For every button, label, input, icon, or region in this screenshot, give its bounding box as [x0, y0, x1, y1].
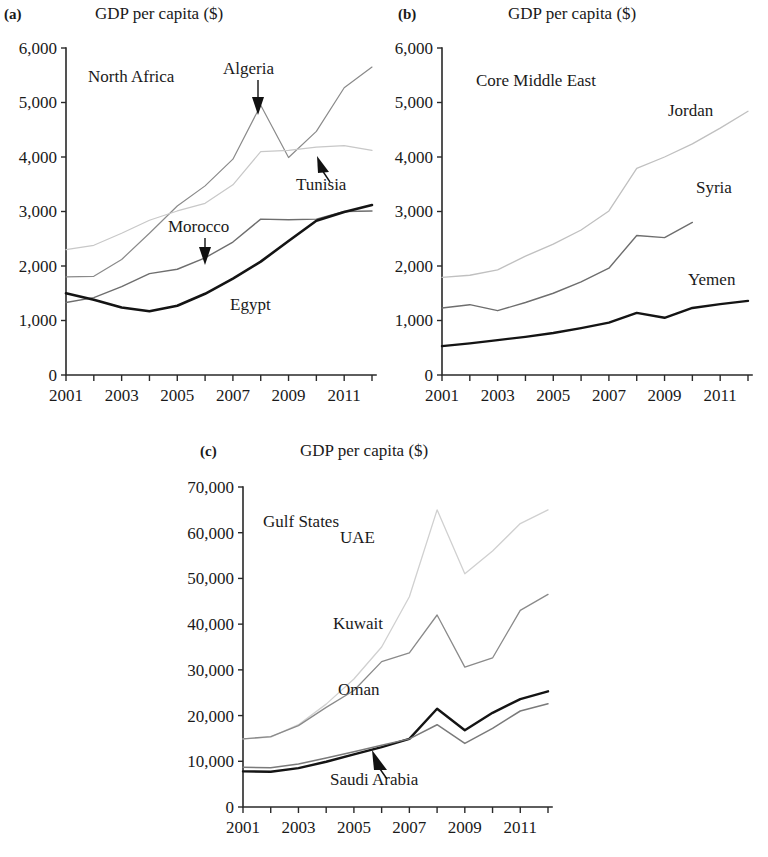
chart-c-svg: 010,00020,00030,00040,00050,00060,00070,…: [140, 437, 760, 857]
axis-lines: [243, 487, 552, 807]
x-tick-label: 2001: [49, 386, 83, 405]
y-tick-label: 5,000: [19, 93, 57, 112]
series-line-saudi-arabia: [243, 704, 548, 768]
series-annotations: JordanSyriaYemen: [668, 101, 736, 289]
x-tick-label: 2011: [327, 386, 360, 405]
x-tick-label: 2007: [392, 818, 427, 837]
y-tick-label: 20,000: [187, 707, 234, 726]
series-line-yemen: [442, 301, 748, 346]
panel-gulf-states: (c) GDP per capita ($) 010,00020,00030,0…: [140, 437, 760, 857]
x-tick-label: 2009: [272, 386, 306, 405]
chart-b: 01,0002,0003,0004,0005,0006,000200120032…: [396, 0, 768, 430]
y-tick-label: 70,000: [187, 478, 234, 497]
y-tick-label: 0: [425, 366, 434, 385]
x-tick-label: 2007: [592, 386, 627, 405]
axes-group: 01,0002,0003,0004,0005,0006,000200120032…: [395, 39, 752, 405]
y-tick-label: 1,000: [395, 311, 433, 330]
x-tick-label: 2005: [160, 386, 194, 405]
series-annotations: AlgeriaTunisiaMoroccoEgypt: [168, 59, 347, 314]
series-label-kuwait: Kuwait: [333, 614, 383, 633]
series-label-uae: UAE: [340, 528, 375, 547]
arrow-head-icon: [252, 97, 264, 115]
y-tick-label: 3,000: [395, 202, 433, 221]
region-label: Gulf States: [263, 512, 339, 531]
y-tick-label: 1,000: [19, 311, 57, 330]
region-label-group: North Africa: [88, 67, 175, 86]
axis-lines: [66, 48, 376, 375]
x-tick-label: 2005: [337, 818, 371, 837]
panel-core-middle-east: (b) GDP per capita ($) 01,0002,0003,0004…: [396, 0, 768, 430]
y-tick-label: 2,000: [19, 257, 57, 276]
x-tick-label: 2009: [448, 818, 482, 837]
y-tick-label: 30,000: [187, 661, 234, 680]
y-tick-label: 6,000: [395, 39, 433, 58]
series-label-tunisia: Tunisia: [296, 175, 347, 194]
y-tick-label: 5,000: [395, 93, 433, 112]
series-label-saudi-arabia: Saudi Arabia: [330, 770, 419, 789]
y-tick-label: 2,000: [395, 257, 433, 276]
arrow-head-icon: [372, 750, 387, 770]
region-label: Core Middle East: [476, 71, 596, 90]
x-tick-label: 2011: [703, 386, 736, 405]
series-line-uae: [243, 510, 548, 739]
series-label-egypt: Egypt: [230, 295, 271, 314]
region-label: North Africa: [88, 67, 175, 86]
series-label-algeria: Algeria: [223, 59, 274, 78]
series-label-jordan: Jordan: [668, 101, 714, 120]
y-tick-label: 3,000: [19, 202, 57, 221]
chart-b-svg: 01,0002,0003,0004,0005,0006,000200120032…: [396, 0, 768, 430]
series-group: [243, 510, 548, 772]
y-tick-label: 60,000: [187, 524, 234, 543]
x-tick-label: 2005: [536, 386, 570, 405]
series-label-syria: Syria: [696, 178, 732, 197]
y-tick-label: 6,000: [19, 39, 57, 58]
x-tick-label: 2003: [281, 818, 315, 837]
series-label-morocco: Morocco: [168, 217, 229, 236]
chart-c: 010,00020,00030,00040,00050,00060,00070,…: [140, 437, 760, 857]
y-tick-label: 4,000: [19, 148, 57, 167]
region-label-group: Core Middle East: [476, 71, 596, 90]
x-tick-label: 2001: [226, 818, 260, 837]
y-tick-label: 4,000: [395, 148, 433, 167]
series-line-oman: [243, 691, 548, 771]
y-tick-label: 10,000: [187, 752, 234, 771]
x-tick-label: 2007: [216, 386, 251, 405]
y-tick-label: 40,000: [187, 615, 234, 634]
series-label-oman: Oman: [338, 680, 380, 699]
chart-a-svg: 01,0002,0003,0004,0005,0006,000200120032…: [0, 0, 392, 430]
x-tick-label: 2003: [105, 386, 139, 405]
y-tick-label: 0: [49, 366, 58, 385]
region-label-group: Gulf States: [263, 512, 339, 531]
panel-north-africa: (a) GDP per capita ($) 01,0002,0003,0004…: [0, 0, 392, 430]
series-group: [442, 111, 748, 346]
y-tick-label: 50,000: [187, 569, 234, 588]
x-tick-label: 2003: [481, 386, 515, 405]
series-line-kuwait: [243, 594, 548, 738]
series-line-syria: [442, 222, 692, 310]
arrow-head-icon: [317, 156, 329, 173]
y-tick-label: 0: [226, 798, 235, 817]
x-tick-label: 2001: [425, 386, 459, 405]
x-tick-label: 2009: [648, 386, 682, 405]
x-tick-label: 2011: [504, 818, 537, 837]
series-label-yemen: Yemen: [688, 270, 736, 289]
chart-a: 01,0002,0003,0004,0005,0006,000200120032…: [0, 0, 392, 430]
